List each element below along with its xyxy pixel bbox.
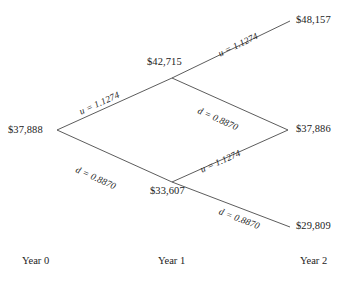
axis-label-year-1: Year 1 [158, 256, 185, 267]
axis-label-year-0: Year 0 [22, 256, 49, 267]
node-year2-upup-value: $48,157 [296, 15, 331, 26]
axis-label-year-2: Year 2 [300, 256, 327, 267]
node-year2-updown-value: $37,886 [296, 124, 331, 135]
node-year1-down-value: $33,607 [150, 186, 185, 197]
node-year1-up-value: $42,715 [147, 57, 182, 68]
branch-root-up [57, 78, 172, 130]
tree-branch-lines [0, 0, 348, 281]
node-root-value: $37,888 [8, 125, 43, 136]
node-year2-downdown-value: $29,809 [296, 221, 331, 232]
binomial-tree-diagram: $37,888 $42,715 $33,607 $48,157 $37,886 … [0, 0, 348, 281]
